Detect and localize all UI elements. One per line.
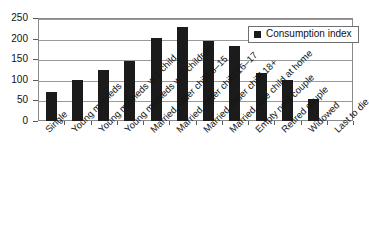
y-tick-label: 150 [11,54,28,64]
y-tick-label: 250 [11,13,28,23]
y-tick-label: 50 [17,95,28,105]
legend-square-marker-icon [254,31,261,38]
y-axis: 050100150200250 [0,18,34,121]
y-tick-label: 200 [11,34,28,44]
x-axis-labels: SingleYoung marriedsYoung marrieds w 1 c… [0,121,369,245]
legend-entry-label: Consumption index [266,29,352,39]
chart-legend: Consumption index [248,26,359,43]
y-tick-label: 100 [11,75,28,85]
bar-chart: 050100150200250 SingleYoung marriedsYoun… [0,0,369,245]
